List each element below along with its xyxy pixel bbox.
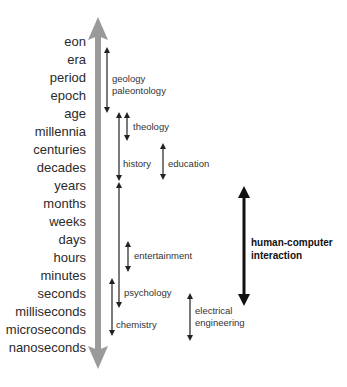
label-paleontology: paleontology — [112, 85, 166, 97]
label-history: history — [123, 158, 151, 170]
label-chemistry: chemistry — [116, 319, 157, 331]
label-geology-paleontology: geology paleontology — [112, 73, 166, 96]
label-psychology: psychology — [124, 287, 172, 299]
label-electrical-engineering: electrical engineering — [195, 305, 245, 328]
label-interaction: interaction — [251, 249, 333, 262]
label-geology: geology — [112, 73, 166, 85]
label-human-computer: human-computer — [251, 236, 333, 249]
label-human-computer-interaction: human-computer interaction — [251, 236, 333, 262]
diagram-arrows — [0, 0, 347, 387]
label-theology: theology — [133, 121, 169, 133]
label-engineering: engineering — [195, 317, 245, 329]
label-electrical: electrical — [195, 305, 245, 317]
label-education: education — [168, 158, 209, 170]
label-entertainment: entertainment — [134, 250, 192, 262]
time-axis-arrow — [88, 17, 108, 369]
